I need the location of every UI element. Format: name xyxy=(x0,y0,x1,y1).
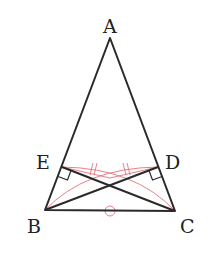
geometry-diagram: A B C D E xyxy=(0,0,214,253)
segment-ce xyxy=(62,167,175,211)
label-a: A xyxy=(102,15,117,37)
construction-lines xyxy=(45,163,175,216)
segment-bd xyxy=(45,167,158,210)
label-e: E xyxy=(36,151,50,173)
label-d: D xyxy=(165,151,180,173)
label-b: B xyxy=(27,215,41,237)
label-c: C xyxy=(180,215,195,237)
main-lines xyxy=(45,38,175,211)
